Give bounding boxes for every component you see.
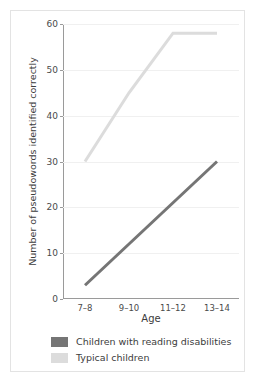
legend-label: Children with reading disabilities: [76, 336, 231, 347]
x-axis-title: Age: [63, 313, 239, 324]
y-axis-title: Number of pseudowords identified correct…: [25, 24, 39, 299]
plot-area: 0102030405060 7–89–1011–1213–14: [63, 24, 239, 299]
y-tick-label: 0: [52, 294, 58, 304]
legend-swatch: [51, 337, 68, 347]
y-tick-label: 10: [47, 248, 58, 258]
chart-figure: Number of pseudowords identified correct…: [10, 10, 245, 372]
series-line-0: [85, 162, 217, 286]
y-tick-label: 40: [47, 111, 58, 121]
y-tick-label: 20: [47, 202, 58, 212]
chart-legend: Children with reading disabilitiesTypica…: [51, 336, 241, 368]
y-tick-mark: [60, 299, 63, 300]
legend-swatch: [51, 353, 68, 363]
x-tick-label: 7–8: [77, 303, 92, 313]
y-tick-label: 30: [47, 157, 58, 167]
y-tick-label: 50: [47, 65, 58, 75]
y-tick-label: 60: [47, 19, 58, 29]
x-tick-label: 13–14: [204, 303, 230, 313]
x-tick-label: 9–10: [119, 303, 139, 313]
legend-label: Typical children: [76, 352, 149, 363]
series-line-1: [85, 33, 217, 161]
series-lines: [63, 24, 239, 299]
legend-item: Children with reading disabilities: [51, 336, 241, 347]
y-axis-title-text: Number of pseudowords identified correct…: [27, 57, 38, 266]
x-tick-label: 11–12: [160, 303, 186, 313]
legend-item: Typical children: [51, 352, 241, 363]
